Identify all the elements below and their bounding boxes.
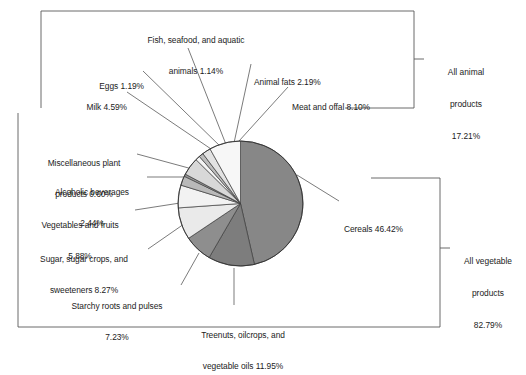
label-meat: Meat and offal 8.10%	[292, 81, 432, 133]
leader-starchy	[181, 253, 199, 285]
label-fish-line1: Fish, seafood, and aquatic	[108, 35, 284, 45]
pie-slices	[178, 141, 303, 266]
label-veg-fruit-line1: Vegetables and fruits	[26, 220, 134, 230]
label-treenuts: Treenuts, oilcrops, and vegetable oils 1…	[180, 309, 306, 375]
label-treenuts-line1: Treenuts, oilcrops, and	[180, 330, 306, 340]
label-starchy-line1: Starchy roots and pulses	[55, 301, 179, 311]
group-label-vegetable-line1: All vegetable	[452, 256, 524, 267]
label-meat-line1: Meat and offal 8.10%	[292, 102, 432, 112]
label-starchy-line2: 7.23%	[55, 332, 179, 342]
label-sugar-line1: Sugar, sugar crops, and	[22, 254, 146, 264]
label-milk: Milk 4.59%	[28, 81, 127, 133]
label-milk-line1: Milk 4.59%	[28, 102, 127, 112]
group-label-animal-line2: products	[428, 99, 504, 110]
group-label-vegetable-line3: 82.79%	[452, 320, 524, 331]
group-label-vegetable: All vegetable products 82.79%	[452, 235, 524, 352]
group-label-animal: All animal products 17.21%	[428, 46, 504, 163]
leader-sugar	[148, 224, 184, 249]
group-label-animal-line3: 17.21%	[428, 131, 504, 142]
leader-cereals	[297, 175, 339, 201]
label-alcohol-line1: Alcoholic beverages	[38, 187, 146, 197]
label-cereals-line1: Cereals 46.42%	[344, 224, 454, 234]
label-starchy: Starchy roots and pulses 7.23%	[55, 280, 179, 363]
label-treenuts-line2: vegetable oils 11.95%	[180, 361, 306, 371]
group-label-vegetable-line2: products	[452, 288, 524, 299]
label-cereals: Cereals 46.42%	[344, 203, 454, 255]
group-label-animal-line1: All animal	[428, 67, 504, 78]
